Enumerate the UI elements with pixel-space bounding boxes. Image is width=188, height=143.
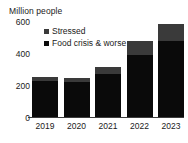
y-axis-tick-600: 600 (4, 17, 30, 27)
x-axis-tick-labels: 2019 2020 2021 2022 2023 (32, 121, 184, 131)
y-axis-tick-400: 400 (4, 49, 30, 59)
bar-2023[interactable] (158, 12, 184, 117)
bar-segment-food-crisis (95, 74, 121, 117)
x-axis-label-2021: 2021 (95, 121, 121, 131)
bar-segment-food-crisis (32, 81, 58, 117)
x-axis-label-2020: 2020 (64, 121, 90, 131)
bar-chart: Million people 600 400 200 0 (0, 0, 188, 143)
bar-segment-food-crisis (158, 41, 184, 117)
legend-label: Food crisis & worse (52, 38, 126, 48)
legend-item-food-crisis[interactable]: Food crisis & worse (44, 38, 126, 48)
x-axis-label-2023: 2023 (158, 121, 184, 131)
legend-swatch-icon (44, 29, 49, 34)
y-axis-tick-0: 0 (4, 113, 30, 123)
bar-2022[interactable] (127, 12, 153, 117)
legend-item-stressed[interactable]: Stressed (44, 26, 126, 36)
chart-legend: Stressed Food crisis & worse (44, 26, 126, 50)
y-axis-tick-labels: 600 400 200 0 (0, 0, 30, 143)
bar-segment-food-crisis (64, 82, 90, 117)
bar-segment-stressed (127, 41, 153, 55)
bar-segment-food-crisis (127, 55, 153, 117)
bar-segment-stressed (158, 24, 184, 41)
legend-label: Stressed (52, 26, 86, 36)
bar-segment-stressed (95, 67, 121, 74)
y-axis-tick-200: 200 (4, 81, 30, 91)
x-axis-label-2019: 2019 (32, 121, 58, 131)
x-axis-line (28, 117, 184, 118)
legend-swatch-icon (44, 41, 49, 46)
x-axis-label-2022: 2022 (127, 121, 153, 131)
